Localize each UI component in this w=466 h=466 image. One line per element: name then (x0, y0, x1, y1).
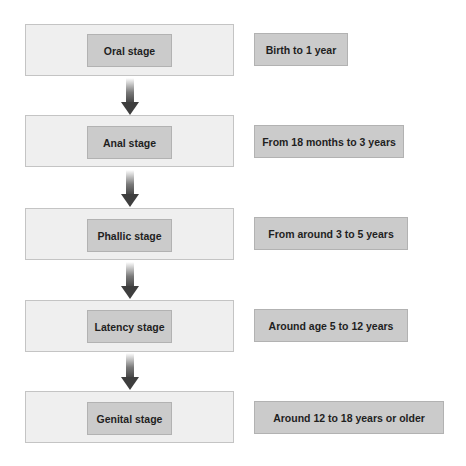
age-box-oral: Birth to 1 year (254, 33, 348, 66)
age-box-latency: Around age 5 to 12 years (254, 309, 408, 342)
stage-label: Latency stage (94, 321, 164, 333)
stage-box-anal: Anal stage (87, 126, 172, 159)
age-label: From around 3 to 5 years (268, 228, 393, 240)
age-box-anal: From 18 months to 3 years (254, 125, 404, 158)
age-label: Around 12 to 18 years or older (273, 412, 425, 424)
down-arrow-icon (121, 353, 139, 391)
stage-box-oral: Oral stage (87, 34, 172, 67)
age-label: From 18 months to 3 years (262, 136, 396, 148)
stage-box-phallic: Phallic stage (87, 219, 172, 252)
stage-label: Genital stage (97, 413, 163, 425)
stage-label: Phallic stage (97, 230, 161, 242)
age-box-phallic: From around 3 to 5 years (254, 217, 408, 250)
stage-label: Anal stage (103, 137, 156, 149)
age-box-genital: Around 12 to 18 years or older (254, 401, 444, 434)
stage-box-genital: Genital stage (87, 402, 172, 435)
age-label: Birth to 1 year (266, 44, 337, 56)
stage-box-latency: Latency stage (87, 310, 172, 343)
down-arrow-icon (121, 262, 139, 300)
age-label: Around age 5 to 12 years (269, 320, 394, 332)
down-arrow-icon (121, 78, 139, 116)
stage-label: Oral stage (104, 45, 155, 57)
down-arrow-icon (121, 170, 139, 208)
